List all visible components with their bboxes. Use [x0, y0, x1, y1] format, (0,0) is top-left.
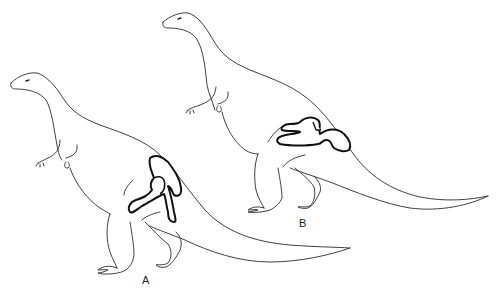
panel-label-b: B	[299, 218, 306, 229]
pelvis-a	[129, 156, 181, 222]
dinosaur-a	[11, 73, 350, 274]
panel-label-a: A	[142, 275, 149, 286]
dinosaur-b	[163, 13, 488, 213]
figure: A B	[0, 0, 498, 296]
pelvis-b	[277, 118, 350, 152]
illustration	[0, 0, 498, 296]
